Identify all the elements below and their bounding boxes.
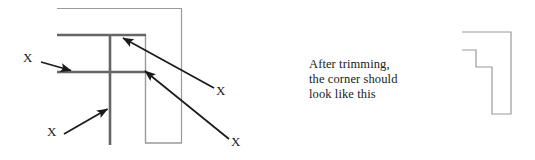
caption-line-2: the corner should xyxy=(309,72,439,87)
trimming-caption: After trimming, the corner should look l… xyxy=(309,57,439,102)
trim-mark-upper-right-label: X xyxy=(216,84,225,97)
leader-arrow-bottom xyxy=(64,109,108,134)
diagram-svg xyxy=(0,0,535,160)
figure-canvas: X X X X After trimming, the corner shoul… xyxy=(0,0,535,160)
left-thin-outline xyxy=(57,8,182,144)
caption-line-3: look like this xyxy=(309,87,439,102)
caption-line-1: After trimming, xyxy=(309,57,439,72)
trim-mark-bottom-label: X xyxy=(47,125,56,138)
left-thick-structure xyxy=(57,35,146,145)
leader-arrow-lower-right xyxy=(145,71,229,139)
leader-arrow-left xyxy=(41,62,71,71)
trim-mark-lower-right-label: X xyxy=(231,135,240,148)
leader-arrows xyxy=(41,38,229,139)
trim-mark-left-label: X xyxy=(23,51,32,64)
leader-arrow-upper-right xyxy=(123,38,214,88)
trimmed-corner-outline xyxy=(462,32,511,114)
stepped-corner-path xyxy=(462,32,511,114)
